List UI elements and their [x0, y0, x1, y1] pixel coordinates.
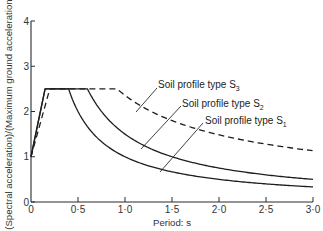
x-tick-label: 0·5	[71, 204, 86, 215]
series-curves	[31, 89, 313, 187]
x-tick-label: 1·0	[118, 204, 133, 215]
series-label-s3: Soil profile type S3	[158, 79, 240, 92]
series-label-s2-main: Soil profile type S	[182, 98, 260, 109]
x-axis-title: Period: s	[153, 217, 191, 228]
x-tick-label: 3·0	[306, 204, 321, 215]
series-label-s1-sub: 1	[283, 121, 287, 128]
y-axis-title: (Spectral acceleration)/(Maximum ground …	[3, 0, 14, 230]
series-label-s1-main: Soil profile type S	[205, 115, 283, 126]
x-tick-label: 2·0	[212, 204, 227, 215]
x-tick-label: 0	[28, 204, 34, 215]
series-label-s2: Soil profile type S2	[182, 98, 264, 111]
y-tick-label: 1	[23, 151, 29, 162]
response-spectrum-chart: 01234 00·51·01·52·02·53·0 Soil profile t…	[0, 0, 323, 231]
curve-s1	[31, 89, 313, 187]
series-label-s3-sub: 3	[236, 85, 240, 92]
y-tick-label: 3	[23, 61, 29, 72]
y-tick-label: 4	[23, 16, 29, 27]
x-ticks: 00·51·01·52·02·53·0	[28, 197, 320, 215]
series-label-s2-sub: 2	[260, 104, 264, 111]
leader-line-s2	[141, 106, 181, 149]
x-tick-label: 2·5	[259, 204, 274, 215]
x-tick-label: 1·5	[165, 204, 180, 215]
y-tick-label: 2	[23, 106, 29, 117]
series-label-s3-main: Soil profile type S	[158, 79, 236, 90]
y-ticks: 01234	[23, 16, 35, 208]
leader-line-s1	[160, 123, 203, 172]
series-label-s1: Soil profile type S1	[205, 115, 287, 128]
